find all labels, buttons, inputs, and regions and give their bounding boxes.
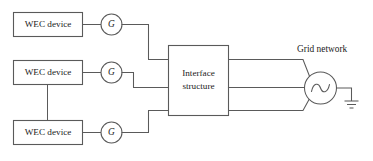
wec-device-3: WEC device: [14, 121, 83, 145]
generator-1-label: G: [108, 19, 115, 29]
generator-2-label: G: [108, 67, 115, 77]
schematic-canvas: WEC device WEC device WEC device G G G: [0, 0, 373, 161]
wec-grid-block-diagram: WEC device WEC device WEC device G G G: [0, 0, 373, 161]
wec-device-3-label: WEC device: [25, 127, 72, 137]
interface-to-grid-wire-top: [229, 60, 312, 81]
wec-device-2: WEC device: [14, 61, 83, 85]
generator-3: G: [101, 122, 122, 143]
interface-structure-label-line2: structure: [182, 81, 214, 91]
generator-1-to-interface-wire: [122, 25, 169, 60]
interface-to-grid-wire-bottom: [229, 96, 312, 111]
interface-structure: Interface structure: [169, 46, 229, 116]
generator-2-to-interface-wire: [122, 73, 169, 88]
wec-device-2-label: WEC device: [25, 67, 72, 77]
interface-structure-label-line1: Interface: [182, 68, 215, 78]
ground-lead-wire: [337, 88, 352, 101]
generator-2: G: [101, 62, 122, 83]
generator-3-to-interface-wire: [122, 111, 169, 133]
ground-symbol: [337, 88, 359, 108]
wec-device-1: WEC device: [14, 13, 83, 37]
grid-network-label: Grid network: [297, 44, 348, 54]
wec-device-1-label: WEC device: [25, 19, 72, 29]
generator-3-label: G: [108, 127, 115, 137]
grid-network: Grid network: [297, 44, 348, 104]
generator-1: G: [101, 14, 122, 35]
